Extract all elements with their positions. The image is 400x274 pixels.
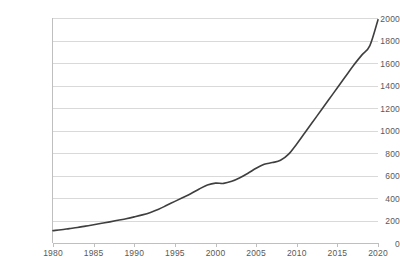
gridline-1600: [53, 63, 378, 64]
x-tick-mark-2000: [216, 243, 217, 247]
y-tick-label-1800: 1800: [356, 37, 400, 46]
x-tick-label-1995: 1995: [155, 249, 195, 258]
x-tick-mark-2005: [256, 243, 257, 247]
gridline-2000: [53, 18, 378, 19]
x-tick-label-2005: 2005: [236, 249, 276, 258]
y-tick-label-2000: 2000: [356, 15, 400, 24]
x-tick-mark-2015: [337, 243, 338, 247]
x-tick-label-2000: 2000: [196, 249, 236, 258]
y-tick-label-600: 600: [356, 172, 400, 181]
y-tick-label-200: 200: [356, 217, 400, 226]
plot-area: [53, 18, 378, 243]
x-tick-mark-2010: [297, 243, 298, 247]
x-tick-mark-1980: [53, 243, 54, 247]
x-tick-label-2015: 2015: [317, 249, 357, 258]
gridline-400: [53, 198, 378, 199]
y-tick-label-1000: 1000: [356, 127, 400, 136]
x-tick-label-1985: 1985: [74, 249, 114, 258]
y-tick-label-1400: 1400: [356, 82, 400, 91]
x-tick-label-2020: 2020: [358, 249, 398, 258]
gridline-200: [53, 221, 378, 222]
x-tick-mark-1985: [94, 243, 95, 247]
gridline-1800: [53, 41, 378, 42]
x-tick-label-1980: 1980: [33, 249, 73, 258]
x-tick-mark-1995: [175, 243, 176, 247]
y-tick-label-1600: 1600: [356, 60, 400, 69]
x-tick-label-2010: 2010: [277, 249, 317, 258]
y-tick-label-800: 800: [356, 150, 400, 159]
line-chart: 2000 1800 1600 1400 1200 1000 800 600 40…: [0, 0, 400, 274]
gridline-800: [53, 153, 378, 154]
y-axis-line: [52, 18, 53, 243]
gridline-1200: [53, 108, 378, 109]
gridline-1000: [53, 131, 378, 132]
x-tick-mark-2020: [378, 243, 379, 247]
gridline-1400: [53, 86, 378, 87]
x-tick-mark-1990: [134, 243, 135, 247]
x-tick-label-1990: 1990: [114, 249, 154, 258]
y-tick-label-400: 400: [356, 195, 400, 204]
y-tick-label-1200: 1200: [356, 105, 400, 114]
gridline-600: [53, 176, 378, 177]
